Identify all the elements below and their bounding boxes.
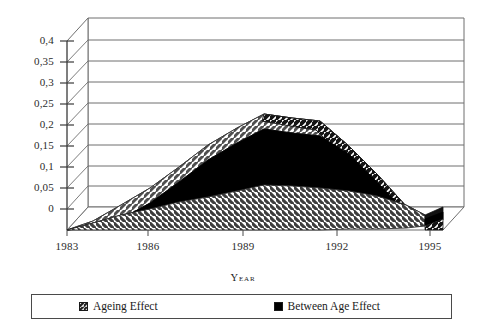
- x-tick-label: 1992: [312, 240, 362, 252]
- y-tick-label: 0,05: [14, 181, 54, 193]
- x-tick-label: 1986: [123, 240, 173, 252]
- y-tick-label: 0,1: [14, 160, 54, 172]
- legend-label: Ageing Effect: [93, 301, 158, 313]
- legend-label: Between Age Effect: [288, 301, 380, 313]
- y-tick-label: 0,3: [14, 76, 54, 88]
- legend-swatch-solid-black-icon: [274, 302, 283, 311]
- legend-item-ageing-effect[interactable]: Ageing Effect: [79, 301, 158, 313]
- x-tick-label: 1995: [405, 240, 455, 252]
- y-tick-label: 0,4: [14, 34, 54, 46]
- y-tick-label: 0,15: [14, 139, 54, 151]
- y-tick-label: 0,2: [14, 118, 54, 130]
- y-tick-label: 0,35: [14, 55, 54, 67]
- area-chart: 0,4 0,35 0,3 0,25 0,2 0,15 0,1 0,05 0 19…: [0, 0, 486, 328]
- x-tick-label: 1989: [218, 240, 268, 252]
- x-tick-label: 1983: [42, 240, 92, 252]
- x-axis-ticks: [67, 230, 430, 236]
- legend-item-between-age-effect[interactable]: Between Age Effect: [274, 301, 380, 313]
- y-tick-label: 0,25: [14, 97, 54, 109]
- x-axis-title: Year: [0, 272, 486, 283]
- legend-swatch-hatch-back-icon: [79, 302, 88, 311]
- y-tick-label: 0: [14, 202, 54, 214]
- chart-legend: Ageing Effect Between Age Effect Within …: [31, 294, 452, 319]
